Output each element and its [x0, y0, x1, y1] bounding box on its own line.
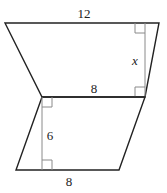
geometry-diagram: 12 x 8 6 8 — [0, 0, 167, 193]
right-angle-marker-middle — [135, 87, 145, 97]
right-angle-marker-top — [135, 23, 145, 33]
label-top-base: 12 — [78, 6, 91, 21]
label-middle-base: 8 — [91, 81, 98, 96]
parallelogram — [16, 97, 145, 170]
right-angle-marker-bottom — [42, 160, 52, 170]
right-angle-marker-upper-left — [42, 97, 52, 107]
label-parallelogram-height: 6 — [47, 128, 54, 143]
label-bottom-base: 8 — [66, 174, 73, 189]
label-trapezoid-height: x — [131, 53, 138, 68]
